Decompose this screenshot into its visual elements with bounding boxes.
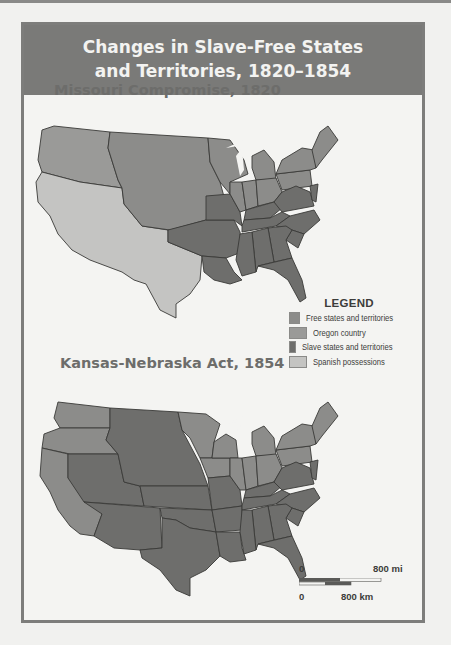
map-kansas-nebraska-act xyxy=(30,398,340,603)
legend-item-free: Free states and territories xyxy=(289,311,409,326)
map-title-1854: Kansas-Nebraska Act, 1854 xyxy=(60,355,284,371)
legend-swatch-slave xyxy=(289,341,296,353)
legend-title: LEGEND xyxy=(289,297,409,309)
state-arkansas xyxy=(212,506,242,532)
state-mississippi xyxy=(236,232,256,276)
state-michigan xyxy=(252,426,276,456)
territory-kansas xyxy=(140,486,212,510)
scale-mi-start: 0 xyxy=(299,563,304,574)
top-edge xyxy=(0,0,451,3)
scale-bar-graphic xyxy=(299,578,383,588)
legend: LEGEND Free states and territories Orego… xyxy=(289,297,409,369)
scale-bar: 0 800 mi 0 800 km xyxy=(295,563,405,608)
scale-km-end: 800 km xyxy=(341,591,373,602)
title-line-2: and Territories, 1820–1854 xyxy=(24,59,422,83)
legend-swatch-free xyxy=(289,312,300,324)
state-new-york xyxy=(276,424,316,450)
territory-washington xyxy=(54,402,110,428)
legend-item-oregon: Oregon country xyxy=(289,326,409,341)
title-line-1: Changes in Slave-Free States xyxy=(24,35,422,59)
scale-mi-end: 800 mi xyxy=(373,563,403,574)
legend-swatch-oregon xyxy=(289,327,307,339)
scale-km-start: 0 xyxy=(299,591,304,602)
state-new-york xyxy=(276,148,316,174)
legend-item-spanish: Spanish possessions xyxy=(289,355,409,370)
lake-superior xyxy=(226,416,244,424)
state-iowa xyxy=(200,458,230,478)
map-title-1820: Missouri Compromise, 1820 xyxy=(54,82,281,98)
territory-florida xyxy=(258,258,306,302)
state-michigan xyxy=(252,150,276,180)
legend-item-slave: Slave states and territories xyxy=(289,340,409,355)
region-new-england xyxy=(312,126,338,168)
region-new-england xyxy=(312,402,338,444)
legend-swatch-spanish xyxy=(289,356,307,368)
